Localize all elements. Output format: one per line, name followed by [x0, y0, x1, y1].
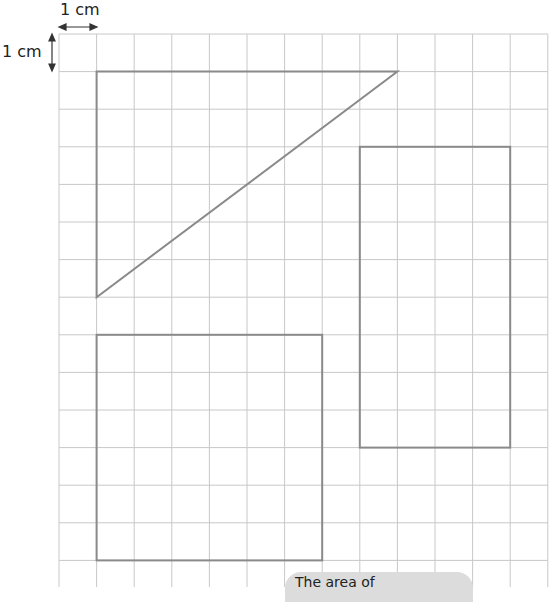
- callout-box: The area of: [285, 572, 473, 602]
- arrowhead-left-icon: [59, 24, 66, 30]
- horizontal-scale-label: 1 cm: [60, 0, 100, 19]
- scale-arrows: [49, 24, 97, 71]
- arrowhead-down-icon: [49, 64, 55, 71]
- shapes: [97, 72, 511, 561]
- vertical-scale-label: 1 cm: [2, 42, 42, 61]
- callout-text: The area of: [295, 574, 375, 590]
- grid-lines: [59, 34, 548, 587]
- arrowhead-right-icon: [90, 24, 97, 30]
- arrowhead-up-icon: [49, 34, 55, 41]
